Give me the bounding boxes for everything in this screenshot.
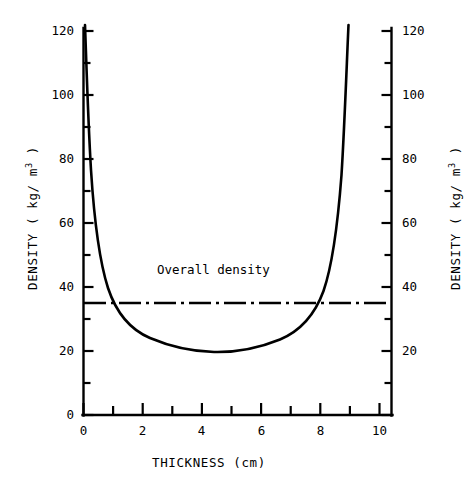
y-tick-label-left-40: 40 (43, 281, 74, 294)
y-tick-label-right-20: 20 (402, 345, 417, 358)
x-tick-label-6: 6 (247, 425, 276, 438)
x-axis-title: THICKNESS (cm) (152, 455, 266, 470)
x-tick-label-2: 2 (128, 425, 157, 438)
y-tick-label-left-20: 20 (43, 345, 74, 358)
x-tick-label-0: 0 (69, 425, 98, 438)
y-tick-label-left-120: 120 (35, 25, 74, 38)
y-tick-label-right-80: 80 (402, 153, 417, 166)
overall-density-annotation: Overall density (157, 262, 270, 277)
y-axis-title-left: DENSITY ( kg/ m3 ) (24, 146, 40, 290)
y-tick-label-left-60: 60 (43, 217, 74, 230)
x-tick-label-4: 4 (187, 425, 216, 438)
y-axis-title-right-exponent: 3 (447, 162, 457, 168)
x-tick-label-8: 8 (306, 425, 335, 438)
chart-canvas (0, 0, 475, 497)
y-axis-title-right-close: ) (448, 146, 463, 162)
y-tick-label-left-0: 0 (43, 409, 74, 422)
y-tick-label-right-40: 40 (402, 281, 417, 294)
density-thickness-chart: 0 20 40 60 80 100 120 20 40 60 80 100 12… (0, 0, 475, 497)
y-axis-title-left-close: ) (25, 146, 40, 162)
y-axis-title-right: DENSITY ( kg/ m3 ) (447, 146, 463, 290)
y-axis-title-left-base: DENSITY ( kg/ m (25, 168, 40, 290)
y-tick-label-right-100: 100 (402, 89, 425, 102)
x-tick-label-10: 10 (365, 425, 394, 438)
bottom-axis-ticks (84, 403, 380, 415)
right-axis-ticks (382, 31, 392, 415)
y-tick-label-right-60: 60 (402, 217, 417, 230)
y-tick-label-right-120: 120 (402, 25, 425, 38)
y-axis-title-right-base: DENSITY ( kg/ m (448, 168, 463, 290)
y-axis-title-left-exponent: 3 (24, 162, 34, 168)
y-tick-label-left-80: 80 (43, 153, 74, 166)
y-tick-label-left-100: 100 (35, 89, 74, 102)
